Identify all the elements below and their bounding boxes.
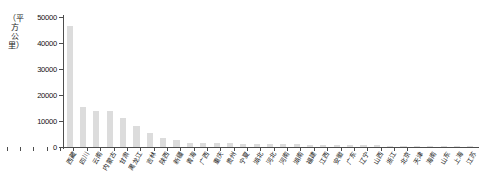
bar [67, 26, 73, 147]
x-axis-tick-label-text: 江西 [318, 150, 331, 166]
x-axis-tick [100, 147, 101, 151]
x-axis-tick-label-text: 湖北 [251, 150, 264, 166]
x-axis-tick [407, 147, 408, 151]
x-axis-tick [260, 147, 261, 151]
x-axis-tick-label-text: 江苏 [465, 150, 478, 166]
x-axis-tick [287, 147, 288, 151]
x-axis-tick-label-text: 浙江 [385, 150, 398, 166]
x-axis-tick-label-text: 辽宁 [358, 150, 371, 166]
x-axis-tick [327, 147, 328, 151]
x-axis-tick [180, 147, 181, 151]
y-axis-tick [59, 121, 63, 122]
x-axis-tick [194, 147, 195, 151]
x-axis-tick [114, 147, 115, 151]
x-axis-tick-label-text: 广西 [198, 150, 211, 166]
y-axis-tick [59, 43, 63, 44]
x-axis-tick-label-text: 山西 [371, 150, 384, 166]
plot-area: 01000020000300004000050000 [63, 17, 477, 147]
x-axis-tick [220, 147, 221, 151]
x-axis-tick [394, 147, 395, 151]
x-axis-tick [167, 147, 168, 151]
x-axis-tick-label-text: 山东 [438, 150, 451, 166]
y-axis-tick [59, 17, 63, 18]
x-axis-tick [234, 147, 235, 151]
x-axis-tick-label-text: 河北 [265, 150, 278, 166]
x-axis-tick [300, 147, 301, 151]
x-axis-tick [341, 147, 342, 151]
x-axis-tick [60, 147, 61, 151]
y-axis-tick-label: 30000 [37, 65, 57, 74]
x-axis-tick-label-text: 海南 [425, 150, 438, 166]
x-axis-tick-label-text: 新疆 [171, 150, 184, 166]
x-axis-tick [381, 147, 382, 151]
y-axis-tick-label: 40000 [37, 39, 57, 48]
x-axis-tick [87, 147, 88, 151]
x-axis-tick-label-text: 吉林 [144, 150, 157, 166]
x-axis-tick-label-text: 四川 [78, 150, 91, 166]
x-axis-tick-label-text: 河南 [278, 150, 291, 166]
x-axis-tick [207, 147, 208, 151]
x-axis-tick [47, 147, 48, 151]
x-axis-tick [20, 147, 21, 151]
x-axis-tick-label-text: 贵州 [225, 150, 238, 166]
x-axis-tick [33, 147, 34, 151]
x-axis-tick [154, 147, 155, 151]
x-axis-tick-label-text: 安徽 [331, 150, 344, 166]
x-axis-tick [140, 147, 141, 151]
x-axis-tick [314, 147, 315, 151]
x-axis-tick-label-text: 陕西 [158, 150, 171, 166]
x-axis-tick-label-text: 重庆 [211, 150, 224, 166]
x-axis-tick-label-text: 宁夏 [238, 150, 251, 166]
x-axis-tick-label-text: 湖南 [291, 150, 304, 166]
x-axis-tick [127, 147, 128, 151]
x-axis-tick [247, 147, 248, 151]
x-axis-tick-label-text: 天津 [411, 150, 424, 166]
x-axis-tick-label-text: 西藏 [64, 150, 77, 166]
y-axis-tick-label: 20000 [37, 91, 57, 100]
x-axis-tick-label-text: 北京 [398, 150, 411, 166]
y-axis-tick [59, 69, 63, 70]
y-axis-tick-label: 0 [53, 143, 57, 152]
y-axis-tick-label: 10000 [37, 117, 57, 126]
bar-chart: （平方公里） 01000020000300004000050000 西藏四川云南… [0, 0, 491, 192]
x-axis-tick [73, 147, 74, 151]
x-axis-tick [274, 147, 275, 151]
y-axis-unit-label: （平方公里） [8, 14, 22, 50]
x-axis-tick [7, 147, 8, 151]
x-axis-tick-label-text: 广东 [345, 150, 358, 166]
x-axis-tick-label-text: 青海 [184, 150, 197, 166]
y-axis-tick-label: 50000 [37, 13, 57, 22]
x-axis-tick-label-text: 福建 [305, 150, 318, 166]
x-axis-tick [354, 147, 355, 151]
y-axis-tick [59, 95, 63, 96]
x-axis-tick [367, 147, 368, 151]
x-axis-tick-label-text: 上海 [452, 150, 465, 166]
